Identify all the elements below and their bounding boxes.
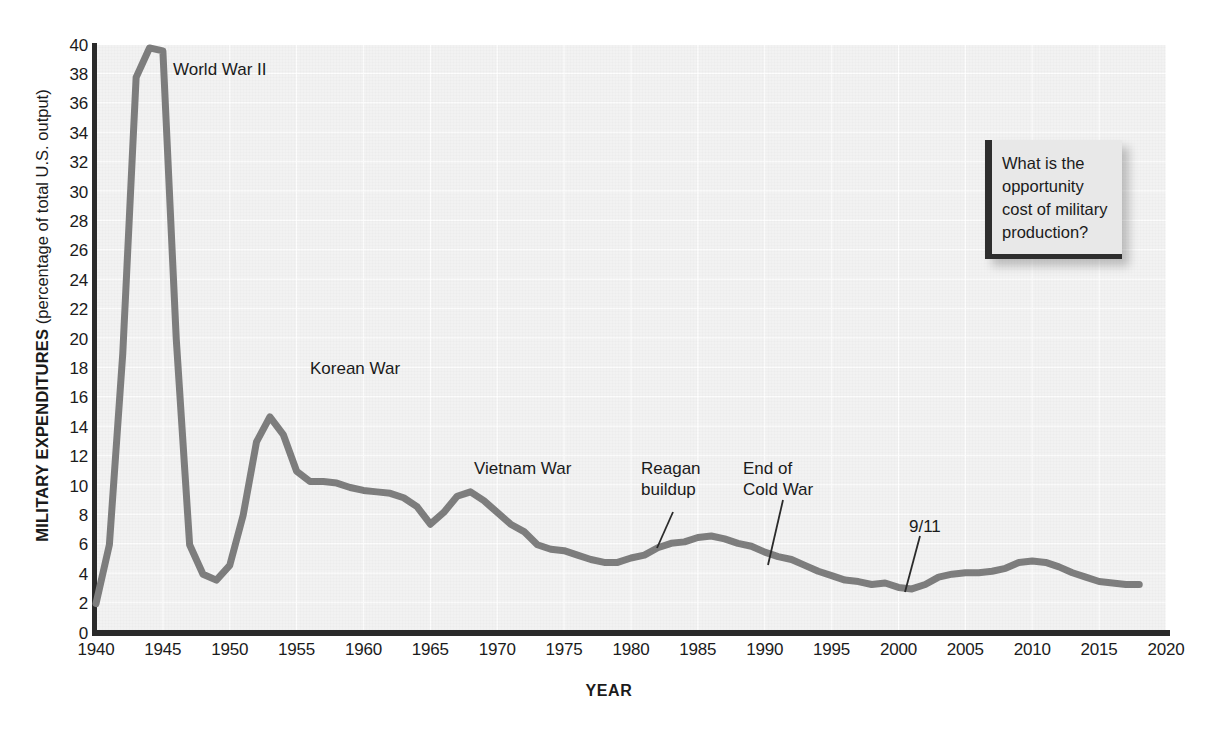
chart-figure: MILITARY EXPENDITURES (percentage of tot… [0, 0, 1218, 732]
x-tick-label: 1970 [479, 641, 516, 659]
x-tick-label: 2000 [880, 641, 917, 659]
x-tick-label: 2010 [1014, 641, 1051, 659]
x-tick-label: 1975 [546, 641, 583, 659]
x-tick-label: 1950 [211, 641, 248, 659]
x-tick-label: 2020 [1147, 641, 1184, 659]
annotation-label: Korean War [310, 358, 400, 379]
x-tick-label: 1940 [77, 641, 114, 659]
x-tick-label: 1960 [345, 641, 382, 659]
annotation-label: Reagan buildup [641, 458, 701, 500]
annotation-label: World War II [173, 59, 267, 80]
x-tick-label: 1990 [746, 641, 783, 659]
x-tick-label: 1965 [412, 641, 449, 659]
x-tick-label: 1980 [612, 641, 649, 659]
callout-box: What is the opportunity cost of military… [985, 140, 1122, 259]
annotation-label: Vietnam War [474, 458, 571, 479]
annotation-label: 9/11 [909, 516, 941, 537]
x-tick-label: 2005 [947, 641, 984, 659]
series-path [96, 48, 1139, 604]
data-series-line [0, 0, 1218, 732]
x-axis-title: YEAR [0, 682, 1218, 700]
x-tick-label: 1955 [278, 641, 315, 659]
annotation-label: End of Cold War [743, 458, 813, 500]
x-tick-label: 2015 [1081, 641, 1118, 659]
x-tick-label: 1995 [813, 641, 850, 659]
x-tick-label: 1985 [679, 641, 716, 659]
x-tick-label: 1945 [144, 641, 181, 659]
